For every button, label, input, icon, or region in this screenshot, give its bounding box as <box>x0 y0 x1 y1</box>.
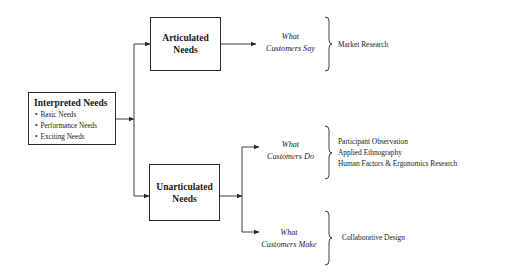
title-line: Articulated <box>162 32 208 44</box>
articulated-needs-title: Articulated Needs <box>162 32 208 56</box>
methods-make: Collaborative Design <box>342 232 405 243</box>
method-item: Human Factors & Ergonomics Research <box>338 158 457 169</box>
needs-list-item: Basic Needs <box>34 110 111 121</box>
unarticulated-needs-box: Unarticulated Needs <box>149 164 220 221</box>
methods-say: Market Research <box>338 39 388 50</box>
method-item: Applied Ethnography <box>338 147 457 158</box>
interpreted-needs-title: Interpreted Needs <box>34 97 111 109</box>
method-item: Participant Observation <box>338 136 457 147</box>
articulated-needs-box: Articulated Needs <box>150 17 221 71</box>
title-line: Unarticulated <box>156 181 212 193</box>
needs-list-item: Performance Needs <box>34 121 111 132</box>
needs-list-item: Exciting Needs <box>34 132 111 143</box>
label-line: What <box>250 227 328 239</box>
needs-list: Basic Needs Performance Needs Exciting N… <box>34 110 111 143</box>
method-item: Market Research <box>338 39 388 50</box>
methods-do: Participant Observation Applied Ethnogra… <box>338 136 457 169</box>
label-line: Customers Do <box>253 151 328 163</box>
unarticulated-needs-title: Unarticulated Needs <box>156 181 212 205</box>
method-item: Collaborative Design <box>342 232 405 243</box>
what-customers-do-label: What Customers Do <box>253 139 328 163</box>
label-line: What <box>253 31 328 43</box>
label-line: What <box>253 139 328 151</box>
what-customers-make-label: What Customers Make <box>250 227 328 251</box>
label-line: Customers Make <box>250 239 328 251</box>
title-line: Needs <box>156 193 212 205</box>
title-line: Needs <box>162 44 208 56</box>
label-line: Customers Say <box>253 43 328 55</box>
what-customers-say-label: What Customers Say <box>253 31 328 55</box>
interpreted-needs-box: Interpreted Needs Basic Needs Performanc… <box>28 92 116 145</box>
